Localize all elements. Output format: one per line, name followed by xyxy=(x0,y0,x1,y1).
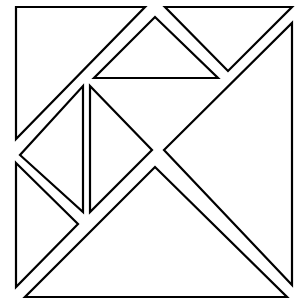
tangram-diagram xyxy=(0,0,299,305)
